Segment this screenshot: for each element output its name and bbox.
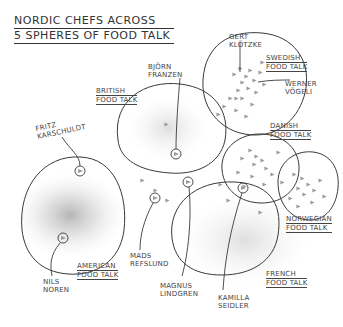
chef-label-nils: NILS NOREN [43, 278, 69, 294]
title-line-2: 5 SPHERES OF FOOD TALK [14, 29, 174, 44]
chef-label-kamilla: KAMILLA SEIDLER [218, 294, 250, 310]
chef-label-bjorn: BJÖRN FRANZEN [148, 63, 183, 79]
danish-sphere [222, 134, 299, 203]
chef-label-werner: WERNER VÖGELI [285, 80, 317, 96]
chef-label-mads: MADS REFSLUND [130, 252, 169, 268]
sphere-label-french: FRENCH FOOD TALK [266, 270, 307, 288]
british-cloud [128, 96, 208, 160]
sphere-label-danish: DANISH FOOD TALK [270, 122, 311, 140]
sphere-label-british: BRITISH FOOD TALK [96, 87, 137, 105]
norwegian-sphere [278, 152, 338, 220]
chef-label-magnus: MAGNUS LINDGREN [160, 282, 198, 298]
page-title: NORDIC CHEFS ACROSS 5 SPHERES OF FOOD TA… [14, 14, 174, 44]
title-line-1: NORDIC CHEFS ACROSS [14, 14, 174, 29]
norwegian-markers [288, 172, 326, 208]
sphere-label-norwegian: NORWEGIAN FOOD TALK [286, 215, 332, 233]
swedish-markers [216, 60, 266, 118]
american-cloud [15, 173, 125, 257]
chef-label-gert: GERT KLÖTZKE [229, 33, 262, 49]
sphere-label-american: AMERICAN FOOD TALK [77, 262, 118, 280]
sphere-label-swedish: SWEDISH FOOD TALK [266, 54, 307, 72]
